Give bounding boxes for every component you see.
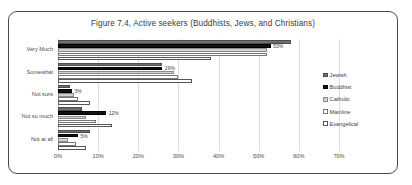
plot-area: Very Much53%Somewhat26%Not sure3%Not so … <box>58 39 339 151</box>
bar-not-at-all-mainline[interactable] <box>58 142 76 146</box>
x-axis-tick-30: 30% <box>173 153 184 159</box>
x-axis-tick-70: 70% <box>333 153 344 159</box>
bar-not-so-much-mainline[interactable] <box>58 120 96 124</box>
bar-row <box>58 79 339 83</box>
bar-row: 53% <box>58 44 339 48</box>
bar-not-sure-mainline[interactable] <box>58 97 78 101</box>
x-axis-tick-40: 40% <box>213 153 224 159</box>
bar-row <box>58 75 339 79</box>
bar-group-not-sure: Not sure3% <box>58 85 339 106</box>
y-axis-label-not-sure: Not sure <box>32 91 58 97</box>
bar-group-somewhat: Somewhat26% <box>58 63 339 84</box>
bar-not-at-all-evangelical[interactable] <box>58 146 86 150</box>
legend-item-catholic[interactable]: Catholic <box>323 96 393 102</box>
bar-very-much-buddhist[interactable] <box>58 44 271 48</box>
legend-item-evangelical[interactable]: Evangelical <box>323 121 393 127</box>
bar-somewhat-evangelical[interactable] <box>58 79 192 83</box>
legend-label-evangelical: Evangelical <box>330 121 359 127</box>
bar-row <box>58 101 339 105</box>
x-axis-tick-0: 0% <box>54 153 62 159</box>
legend-item-jewish[interactable]: Jewish <box>323 72 393 78</box>
bar-row <box>58 116 339 120</box>
bar-row <box>58 146 339 150</box>
bar-row <box>58 142 339 146</box>
bar-not-at-all-buddhist[interactable] <box>58 134 78 138</box>
bar-very-much-catholic[interactable] <box>58 48 267 52</box>
chart-legend: JewishBuddhistCatholicMainlineEvangelica… <box>323 72 393 133</box>
bar-not-so-much-catholic[interactable] <box>58 116 86 120</box>
bar-group-not-at-all: Not at all5% <box>58 130 339 151</box>
legend-item-mainline[interactable]: Mainline <box>323 109 393 115</box>
bar-row <box>58 97 339 101</box>
legend-swatch-icon-jewish <box>323 73 328 78</box>
bar-very-much-jewish[interactable] <box>58 40 291 44</box>
legend-label-catholic: Catholic <box>330 96 350 102</box>
legend-label-buddhist: Buddhist <box>330 84 352 90</box>
bar-row <box>58 40 339 44</box>
legend-swatch-icon-mainline <box>323 109 328 114</box>
bar-somewhat-jewish[interactable] <box>58 63 162 67</box>
y-axis-label-somewhat: Somewhat <box>27 69 58 75</box>
x-axis-tick-60: 60% <box>293 153 304 159</box>
chart-title: Figure 7.4, Active seekers (Buddhists, J… <box>9 19 397 28</box>
bar-row: 26% <box>58 67 339 71</box>
bar-row <box>58 138 339 142</box>
bar-row <box>58 130 339 134</box>
bar-row <box>58 71 339 75</box>
bar-row <box>58 124 339 128</box>
bar-group-very-much: Very Much53% <box>58 40 339 61</box>
bar-very-much-mainline[interactable] <box>58 53 267 57</box>
bar-row: 12% <box>58 111 339 115</box>
legend-item-buddhist[interactable]: Buddhist <box>323 84 393 90</box>
bar-very-much-evangelical[interactable] <box>58 57 211 61</box>
x-axis-tick-50: 50% <box>253 153 264 159</box>
bar-row: 5% <box>58 134 339 138</box>
bar-row <box>58 53 339 57</box>
x-axis-tick-20: 20% <box>133 153 144 159</box>
bar-somewhat-mainline[interactable] <box>58 75 178 79</box>
bar-not-sure-jewish[interactable] <box>58 85 70 89</box>
y-axis-label-very-much: Very Much <box>27 46 58 52</box>
y-axis-label-not-so-much: Not so much <box>22 113 58 119</box>
bar-not-sure-catholic[interactable] <box>58 93 74 97</box>
bar-not-so-much-buddhist[interactable] <box>58 111 106 115</box>
bar-not-sure-evangelical[interactable] <box>58 101 90 105</box>
x-axis-ticks: 0%10%20%30%40%50%60%70% <box>58 153 339 165</box>
bar-row <box>58 57 339 61</box>
bar-row <box>58 48 339 52</box>
bar-not-at-all-catholic[interactable] <box>58 138 68 142</box>
bar-row <box>58 63 339 67</box>
x-axis-tick-10: 10% <box>93 153 104 159</box>
bar-not-so-much-evangelical[interactable] <box>58 124 112 128</box>
bar-row <box>58 120 339 124</box>
bar-somewhat-buddhist[interactable] <box>58 67 162 71</box>
bar-row <box>58 93 339 97</box>
legend-swatch-icon-buddhist <box>323 85 328 90</box>
legend-label-mainline: Mainline <box>330 109 351 115</box>
legend-swatch-icon-evangelical <box>323 121 328 126</box>
y-axis-label-not-at-all: Not at all <box>31 136 58 142</box>
bar-row <box>58 85 339 89</box>
bar-row: 3% <box>58 89 339 93</box>
bar-not-sure-buddhist[interactable] <box>58 89 72 93</box>
legend-swatch-icon-catholic <box>323 97 328 102</box>
bar-group-not-so-much: Not so much12% <box>58 107 339 128</box>
legend-label-jewish: Jewish <box>330 72 347 78</box>
figure-frame: Figure 7.4, Active seekers (Buddhists, J… <box>8 11 398 174</box>
bar-not-so-much-jewish[interactable] <box>58 107 82 111</box>
bar-somewhat-catholic[interactable] <box>58 71 174 75</box>
bar-row <box>58 107 339 111</box>
